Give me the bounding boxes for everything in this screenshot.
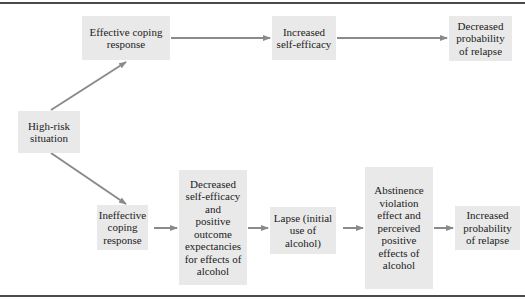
- node-label: Abstinence violation effect and perceive…: [374, 184, 423, 272]
- node-ineffective-coping-response: Ineffective coping response: [97, 205, 148, 250]
- node-increased-self-efficacy: Increased self-efficacy: [272, 16, 336, 60]
- node-label: Ineffective coping response: [99, 209, 146, 247]
- node-high-risk-situation: High-risk situation: [18, 111, 80, 153]
- node-label: Lapse (initial use of alcohol): [274, 212, 332, 250]
- node-effective-coping-response: Effective coping response: [82, 16, 170, 60]
- node-abstinence-violation-effect: Abstinence violation effect and perceive…: [365, 167, 433, 289]
- arrow-highrisk-to-ineffective: [51, 153, 126, 204]
- node-label: Effective coping response: [90, 26, 163, 51]
- node-label: High-risk situation: [28, 120, 70, 145]
- node-label: Increased probability of relapse: [463, 209, 511, 247]
- node-label: Decreased self-efficacy and positive out…: [185, 178, 242, 278]
- node-increased-probability-of-relapse: Increased probability of relapse: [455, 206, 520, 250]
- arrow-highrisk-to-effective: [51, 62, 126, 110]
- node-label: Increased self-efficacy: [277, 26, 332, 51]
- node-decreased-self-efficacy-positive-outcome: Decreased self-efficacy and positive out…: [179, 170, 247, 285]
- node-lapse: Lapse (initial use of alcohol): [270, 207, 336, 254]
- node-decreased-probability-of-relapse: Decreased probability of relapse: [449, 16, 512, 61]
- node-label: Decreased probability of relapse: [456, 20, 504, 58]
